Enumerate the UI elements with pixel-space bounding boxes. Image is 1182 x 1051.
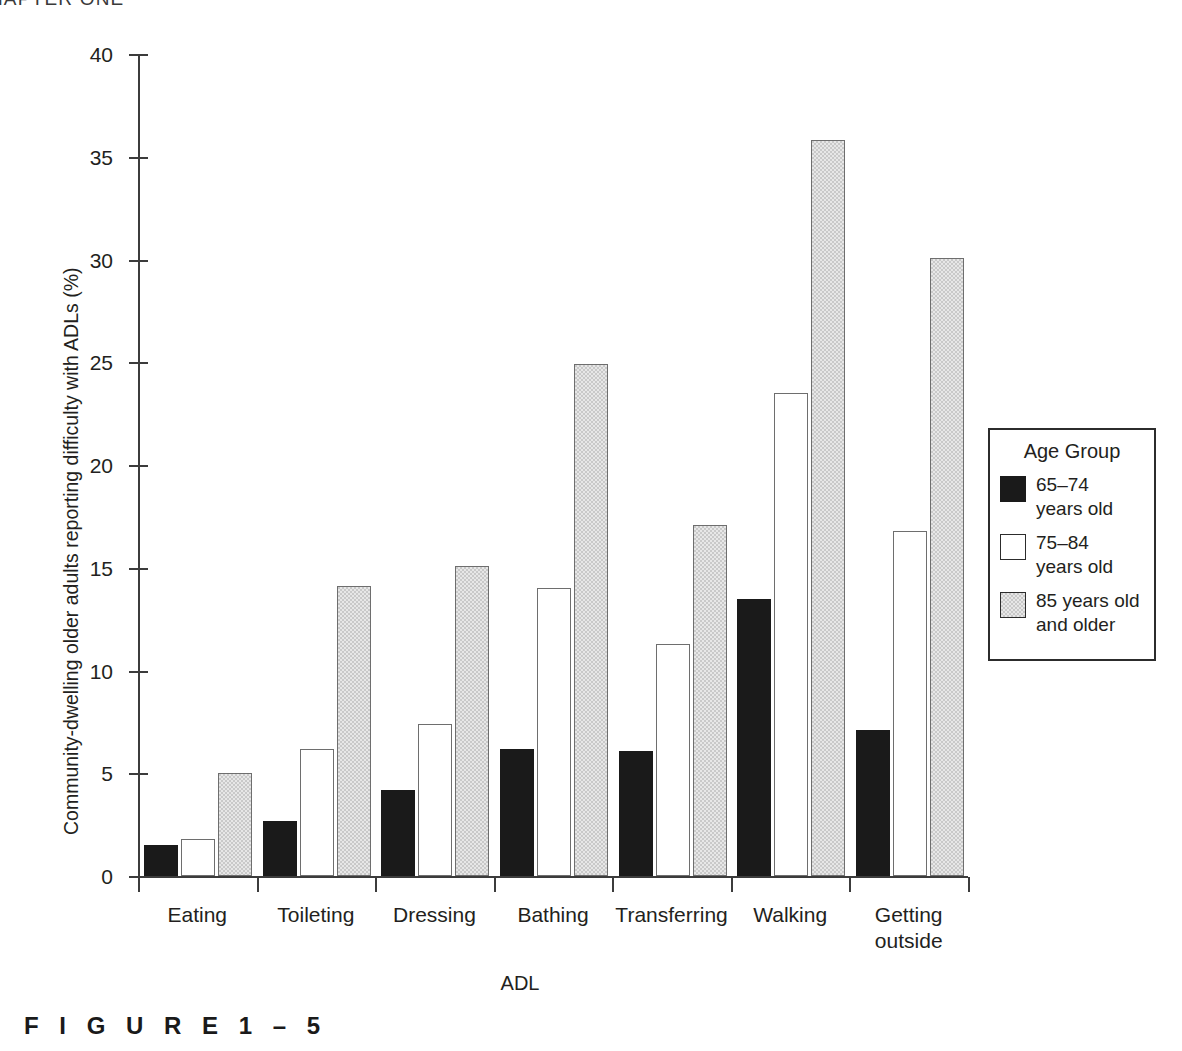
bar-group [494, 56, 613, 876]
legend-item-label: 65–74 years old [1036, 473, 1113, 521]
plot-area: 0510152025303540 [138, 56, 968, 878]
x-axis-tick [494, 877, 496, 892]
bar[interactable] [774, 393, 808, 876]
bar[interactable] [893, 531, 927, 876]
bar[interactable] [218, 773, 252, 876]
bar[interactable] [181, 839, 215, 876]
bar[interactable] [418, 724, 452, 876]
y-axis-tick-label: 5 [101, 762, 113, 786]
x-axis-category-label: Getting outside [829, 902, 989, 954]
figure-container: Community-dwelling older adults reportin… [0, 0, 1182, 1051]
y-axis-tick-label: 30 [90, 249, 113, 273]
y-axis-tick-label: 35 [90, 146, 113, 170]
bar-group [731, 56, 850, 876]
legend-title: Age Group [990, 440, 1154, 463]
y-axis-tick-label: 10 [90, 660, 113, 684]
x-axis-tick [612, 877, 614, 892]
legend-item-label: 75–84 years old [1036, 531, 1113, 579]
bar[interactable] [693, 525, 727, 876]
legend-rows: 65–74 years old75–84 years old85 years o… [990, 473, 1154, 647]
y-axis-tick-label: 0 [101, 865, 113, 889]
x-axis-tick [375, 877, 377, 892]
bar-group [375, 56, 494, 876]
legend-item[interactable]: 85 years old and older [990, 589, 1154, 647]
legend-swatch-icon [1000, 476, 1026, 502]
bar[interactable] [656, 644, 690, 876]
bar-group [612, 56, 731, 876]
y-axis-tick-label: 25 [90, 351, 113, 375]
bar[interactable] [337, 586, 371, 876]
y-axis-tick-label: 40 [90, 43, 113, 67]
bar[interactable] [811, 140, 845, 876]
legend-item[interactable]: 75–84 years old [990, 531, 1154, 589]
y-axis-title: Community-dwelling older adults reportin… [58, 15, 84, 835]
legend-item-label: 85 years old and older [1036, 589, 1140, 637]
bar[interactable] [381, 790, 415, 876]
x-axis-tick [731, 877, 733, 892]
legend-swatch-icon [1000, 534, 1026, 560]
bar[interactable] [144, 845, 178, 876]
bar-group [257, 56, 376, 876]
bar[interactable] [930, 258, 964, 877]
bar[interactable] [263, 821, 297, 876]
bar[interactable] [619, 751, 653, 876]
legend-swatch-icon [1000, 592, 1026, 618]
bar[interactable] [574, 364, 608, 876]
x-axis-title: ADL [0, 972, 1040, 995]
bar[interactable] [500, 749, 534, 876]
x-axis-line [138, 876, 968, 878]
bar-group [849, 56, 968, 876]
bar[interactable] [455, 566, 489, 876]
x-axis-tick [257, 877, 259, 892]
y-axis-tick-label: 20 [90, 454, 113, 478]
bar-group [138, 56, 257, 876]
legend-item[interactable]: 65–74 years old [990, 473, 1154, 531]
figure-caption: F I G U R E 1 – 5 [24, 1012, 327, 1040]
x-axis-tick [968, 877, 970, 892]
x-axis-tick [138, 877, 140, 892]
bar[interactable] [856, 730, 890, 876]
legend: Age Group 65–74 years old75–84 years old… [988, 428, 1156, 661]
bar[interactable] [537, 588, 571, 876]
bar[interactable] [300, 749, 334, 876]
bar[interactable] [737, 599, 771, 876]
x-axis-tick [849, 877, 851, 892]
y-axis-tick-label: 15 [90, 557, 113, 581]
